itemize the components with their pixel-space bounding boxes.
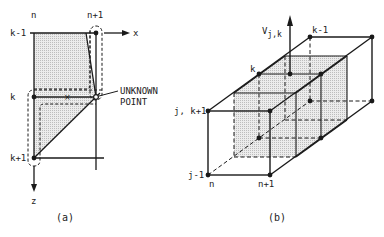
node-n1-bottom <box>268 173 273 178</box>
column-label-n1: n+1 <box>87 10 103 20</box>
label-j-1: j-1 <box>188 170 204 180</box>
caption-a: (a) <box>56 212 74 223</box>
label-k: k <box>250 64 256 74</box>
cross-mark-icon: × <box>64 93 71 102</box>
z-axis-label: z <box>31 196 36 206</box>
x-axis-arrowhead <box>122 30 130 36</box>
shaded-face-front <box>234 93 296 157</box>
velocity-arrowhead <box>287 15 293 26</box>
node-k-1 <box>308 35 313 40</box>
diagram-b: Vj,k k-1 k j, k+1 j-1 n n+1 (b) <box>174 15 374 223</box>
node-n-k <box>32 95 37 100</box>
node-back-top-right <box>370 35 375 40</box>
diagram-a: x z × UNKNOWN POINT n n+1 k-1 k k+1 (a) <box>10 10 158 223</box>
label-n: n <box>209 179 214 189</box>
x-axis-label: x <box>133 28 139 38</box>
shaded-region-upper <box>34 33 95 97</box>
node-velocity-origin <box>288 72 293 77</box>
node-k <box>257 72 262 77</box>
node-j-1 <box>206 173 211 178</box>
label-n1: n+1 <box>258 179 274 189</box>
caption-b: (b) <box>268 212 286 223</box>
node-mid-right-bottom <box>319 136 324 141</box>
node-front-top-right <box>268 109 273 114</box>
node-back-bottom-left <box>308 99 313 104</box>
annotation-unknown: UNKNOWN <box>120 86 158 96</box>
annotation-point: POINT <box>120 97 148 107</box>
velocity-label-sub: j,k <box>267 30 282 39</box>
figure-canvas: x z × UNKNOWN POINT n n+1 k-1 k k+1 (a) <box>0 0 384 237</box>
column-label-n: n <box>31 10 36 20</box>
node-n1-k-1 <box>94 31 99 36</box>
node-mid-right-top <box>319 72 324 77</box>
node-center <box>257 136 262 141</box>
z-axis-arrowhead <box>31 184 37 192</box>
label-j-k1: j, k+1 <box>174 106 207 116</box>
velocity-label: Vj,k <box>262 26 282 39</box>
node-back-bottom-right <box>370 99 375 104</box>
row-label-k-1: k-1 <box>10 28 26 38</box>
row-label-k: k <box>10 92 16 102</box>
label-k-1: k-1 <box>312 25 328 35</box>
unknown-point-node <box>94 95 99 100</box>
row-label-k1: k+1 <box>10 153 26 163</box>
node-n-k1 <box>32 156 37 161</box>
